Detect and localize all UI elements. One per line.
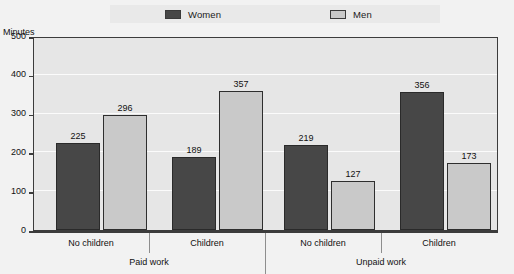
y-axis-tick-label: 0 <box>0 225 26 235</box>
y-axis-tick: 100 <box>0 192 33 193</box>
bar-women[interactable] <box>284 145 328 230</box>
bar-men[interactable] <box>331 181 375 230</box>
bar-value-label: 356 <box>400 80 444 90</box>
x-axis-group-label: Paid work <box>89 257 209 267</box>
y-axis-tick-label: 500 <box>0 31 26 41</box>
x-axis-category-label: No children <box>41 238 141 248</box>
legend-item-men[interactable]: Men <box>330 5 372 23</box>
x-axis-separator <box>265 233 266 274</box>
x-axis-category-label: Children <box>389 238 489 248</box>
y-axis-tick: 0 <box>0 231 33 232</box>
x-axis-category-label: No children <box>273 238 373 248</box>
bar-men[interactable] <box>103 115 147 230</box>
plot-area: 225296189357219127356173 <box>33 37 498 231</box>
y-axis-tick: 300 <box>0 115 33 116</box>
bar-value-label: 225 <box>56 131 100 141</box>
legend-label-women: Women <box>188 9 221 20</box>
bar-value-label: 219 <box>284 133 328 143</box>
y-axis-tick-label: 300 <box>0 108 26 118</box>
bar-value-label: 127 <box>331 169 375 179</box>
x-axis-separator <box>381 233 382 253</box>
light-gray-square-icon <box>330 10 346 19</box>
bar-value-label: 357 <box>219 79 263 89</box>
chart-legend: Women Men <box>110 5 440 23</box>
bar-women[interactable] <box>400 92 444 230</box>
y-axis-tick-label: 400 <box>0 69 26 79</box>
bar-value-label: 189 <box>172 145 216 155</box>
bar-women[interactable] <box>172 157 216 230</box>
x-axis-separator <box>149 233 150 253</box>
y-axis-tick-label: 200 <box>0 147 26 157</box>
bar-women[interactable] <box>56 143 100 230</box>
y-axis-tick: 500 <box>0 37 33 38</box>
x-axis-category-label: Children <box>157 238 257 248</box>
legend-item-women[interactable]: Women <box>165 5 221 23</box>
legend-label-men: Men <box>353 9 372 20</box>
x-axis-group-label: Unpaid work <box>321 257 441 267</box>
bar-value-label: 173 <box>447 151 491 161</box>
y-axis-tick-label: 100 <box>0 186 26 196</box>
bar-value-label: 296 <box>103 103 147 113</box>
bar-men[interactable] <box>219 91 263 230</box>
dark-gray-square-icon <box>165 10 181 19</box>
y-axis-tick: 400 <box>0 76 33 77</box>
bar-men[interactable] <box>447 163 491 230</box>
chart-page: { "chart_data": { "type": "bar", "title"… <box>0 0 514 274</box>
gridline <box>34 74 497 75</box>
x-axis: No childrenChildrenNo childrenChildrenPa… <box>33 231 498 274</box>
y-axis-tick: 200 <box>0 153 33 154</box>
